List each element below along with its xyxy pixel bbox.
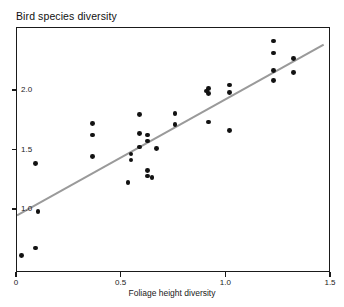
scatter-plot-figure: Bird species diversity 1.01.52.0 00.51.0… bbox=[0, 0, 344, 307]
data-point bbox=[206, 91, 211, 96]
y-tick-label: 1.0 bbox=[21, 204, 32, 213]
data-point bbox=[90, 154, 95, 159]
y-tick-mark bbox=[12, 208, 17, 209]
data-point bbox=[90, 133, 95, 138]
data-point bbox=[19, 253, 24, 258]
x-tick-label: 0.5 bbox=[112, 278, 130, 287]
data-point bbox=[291, 56, 296, 61]
data-point bbox=[271, 51, 276, 56]
plot-area bbox=[16, 27, 330, 272]
data-point bbox=[206, 120, 211, 125]
data-point bbox=[90, 121, 95, 126]
data-point bbox=[150, 175, 155, 180]
plot-canvas bbox=[17, 28, 330, 272]
data-point bbox=[137, 145, 142, 150]
data-point bbox=[291, 70, 296, 75]
y-tick-label: 2.0 bbox=[21, 85, 32, 94]
data-point bbox=[227, 128, 232, 133]
x-tick-mark bbox=[329, 272, 330, 277]
data-point bbox=[227, 90, 232, 95]
data-point bbox=[173, 122, 178, 127]
x-tick-label: 1.0 bbox=[216, 278, 234, 287]
y-tick-mark bbox=[12, 149, 17, 150]
chart-title: Bird species diversity bbox=[16, 10, 117, 23]
x-tick-mark bbox=[225, 272, 226, 277]
y-tick-mark bbox=[12, 89, 17, 90]
y-tick-label: 1.5 bbox=[21, 145, 32, 154]
x-tick-label: 0 bbox=[7, 278, 25, 287]
x-axis-label: Foliage height diversity bbox=[0, 288, 344, 298]
data-point bbox=[137, 112, 142, 117]
data-point bbox=[271, 68, 276, 73]
data-point bbox=[271, 39, 276, 44]
data-point bbox=[36, 209, 41, 214]
data-point bbox=[206, 86, 211, 91]
data-point bbox=[154, 146, 159, 151]
x-tick-mark bbox=[15, 272, 16, 277]
trend-line bbox=[17, 45, 324, 216]
x-tick-label: 1.5 bbox=[321, 278, 339, 287]
x-tick-mark bbox=[120, 272, 121, 277]
